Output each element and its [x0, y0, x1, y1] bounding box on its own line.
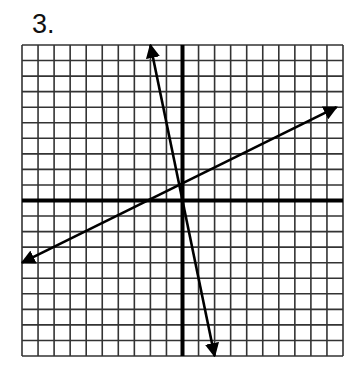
coordinate-grid-graph: [0, 0, 362, 380]
